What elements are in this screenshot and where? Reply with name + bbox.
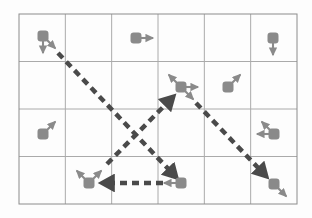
agent-marker — [223, 82, 234, 93]
agent-marker — [176, 178, 187, 189]
agent-nodes-layer — [38, 31, 287, 197]
agent-marker — [38, 129, 49, 140]
agent-marker — [176, 82, 187, 93]
grid-layer — [19, 14, 297, 204]
agent-marker — [269, 179, 280, 190]
agent-marker — [84, 178, 95, 189]
agent-marker — [268, 33, 279, 44]
agent-top-right — [268, 33, 279, 56]
agent-marker — [269, 129, 280, 140]
dashed-path-ascending — [107, 98, 172, 164]
dashed-path-descending-right — [196, 103, 265, 175]
dashed-path-descending-left — [58, 53, 175, 176]
agent-center-hub — [169, 75, 198, 99]
agent-top-left — [38, 31, 56, 54]
agent-lower-right — [257, 122, 280, 140]
figure-canvas — [0, 0, 312, 218]
agent-marker — [131, 33, 142, 44]
agent-marker — [38, 31, 49, 42]
agent-lower-left — [38, 122, 56, 140]
trajectory-paths-layer — [58, 53, 265, 183]
agent-middle-right — [223, 75, 241, 93]
agent-top-center — [131, 33, 154, 44]
agent-bottom-right — [269, 179, 287, 197]
agent-bottom-center — [164, 178, 187, 189]
grid-world-figure — [0, 0, 312, 218]
agent-bottom-left — [77, 171, 101, 189]
